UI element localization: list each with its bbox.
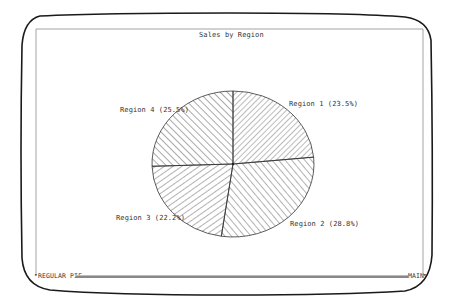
pie-slice-region-4 xyxy=(152,91,233,166)
slice-label-region-2: Region 2 (28.8%) xyxy=(290,220,359,228)
slice-label-region-1: Region 1 (23.5%) xyxy=(289,100,358,108)
pie-center-dot xyxy=(232,163,234,165)
status-separator-line xyxy=(76,275,408,278)
chart-title: Sales by Region xyxy=(199,31,264,39)
slice-label-region-4: Region 4 (25.5%) xyxy=(120,106,189,114)
status-right-marker: • xyxy=(423,271,427,278)
status-mode: MAIN xyxy=(408,272,424,280)
pie-chart xyxy=(0,0,467,308)
slice-label-region-3: Region 3 (22.2%) xyxy=(116,214,185,222)
pie-slice-region-3 xyxy=(152,164,233,236)
